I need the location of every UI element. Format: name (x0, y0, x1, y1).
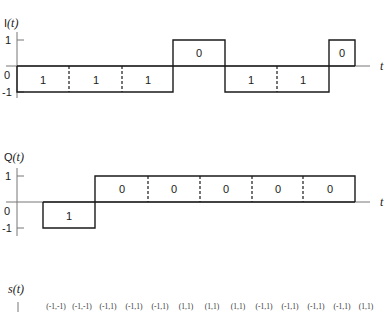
i-bit: 1 (40, 74, 46, 86)
i-bit: 1 (248, 74, 254, 86)
q-plot: Q(t) 1 0 -1 t 1 0 0 0 0 0 (2, 150, 384, 236)
q-tick-label-minus: -1 (2, 222, 12, 234)
i-tick-label-minus: -1 (2, 86, 12, 98)
q-bit: 1 (66, 210, 72, 222)
s-pair-label: (-1,1) (126, 302, 143, 311)
q-time-label: t (380, 195, 384, 209)
s-pair-label: (-1,1) (334, 302, 351, 311)
s-pair-label: (-1,1) (152, 302, 169, 311)
s-pair-label: (1,1) (359, 302, 374, 311)
s-pair-label: (-1,1) (282, 302, 299, 311)
s-pair-label: (1,1) (179, 302, 194, 311)
i-bit: 0 (339, 47, 345, 59)
q-bit: 0 (119, 183, 125, 195)
s-plot-label: s(t) (8, 282, 24, 296)
i-bit: 0 (196, 47, 202, 59)
q-plot-label: Q(t) (4, 150, 24, 164)
i-tick-label-plus: 1 (5, 34, 11, 46)
i-tick-label-zero: 0 (4, 69, 10, 81)
q-tick-label-zero: 0 (4, 205, 10, 217)
s-pair-label: (-1,1) (308, 302, 325, 311)
q-bit: 0 (327, 183, 333, 195)
i-plot-label: I(t) (4, 16, 18, 30)
q-tick-label-plus: 1 (5, 170, 11, 182)
q-bit: 0 (275, 183, 281, 195)
s-pair-label: (-1,-1) (46, 302, 66, 311)
q-bit: 0 (171, 183, 177, 195)
s-pair-label: (1,1) (205, 302, 220, 311)
q-bit: 0 (223, 183, 229, 195)
i-plot: I(t) 1 0 -1 t 1 1 1 0 1 1 0 (2, 16, 384, 98)
i-bit: 1 (300, 74, 306, 86)
s-pair-label: (1,1) (231, 302, 246, 311)
s-pair-label: (-1,-1) (72, 302, 92, 311)
i-bit: 1 (93, 74, 99, 86)
waveform-diagram: I(t) 1 0 -1 t 1 1 1 0 1 1 0 Q(t) 1 0 -1 (0, 0, 388, 312)
i-time-label: t (380, 59, 384, 73)
s-plot: s(t) (-1,-1) (-1,-1) (-1,1) (-1,1) (-1,1… (8, 282, 374, 312)
i-bit: 1 (145, 74, 151, 86)
s-pair-label: (-1,1) (256, 302, 273, 311)
s-pair-label: (-1,1) (100, 302, 117, 311)
